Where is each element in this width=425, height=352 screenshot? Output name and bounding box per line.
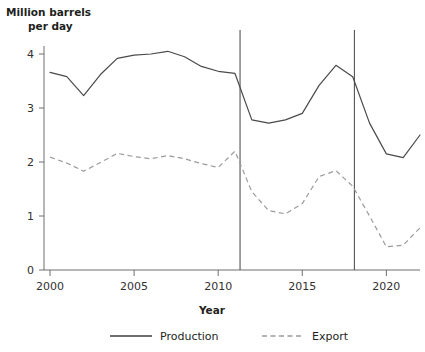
x-tick-label: 2015: [288, 280, 316, 293]
x-tick-label: 2020: [372, 280, 400, 293]
legend-label-production: Production: [160, 330, 219, 343]
series-line-export: [50, 151, 420, 247]
legend-label-export: Export: [312, 330, 349, 343]
y-tick-label: 1: [27, 210, 34, 223]
x-tick-label: 2000: [36, 280, 64, 293]
y-axis-title-line1: Million barrels: [6, 6, 91, 18]
chart-container: Million barrels per day 01234 2000200520…: [0, 0, 425, 352]
data-series: [50, 51, 420, 246]
y-axis: 01234: [27, 46, 44, 277]
x-axis: 20002005201020152020: [36, 270, 420, 293]
y-tick-label: 0: [27, 264, 34, 277]
x-tick-label: 2005: [120, 280, 148, 293]
chart-legend: ProductionExport: [110, 330, 349, 343]
series-line-production: [50, 51, 420, 157]
x-axis-title: Year: [198, 304, 226, 316]
y-axis-title-line2: per day: [28, 20, 73, 32]
y-tick-label: 2: [27, 156, 34, 169]
y-tick-label: 4: [27, 48, 34, 61]
line-chart: Million barrels per day 01234 2000200520…: [0, 0, 425, 352]
y-tick-label: 3: [27, 102, 34, 115]
x-tick-label: 2010: [204, 280, 232, 293]
